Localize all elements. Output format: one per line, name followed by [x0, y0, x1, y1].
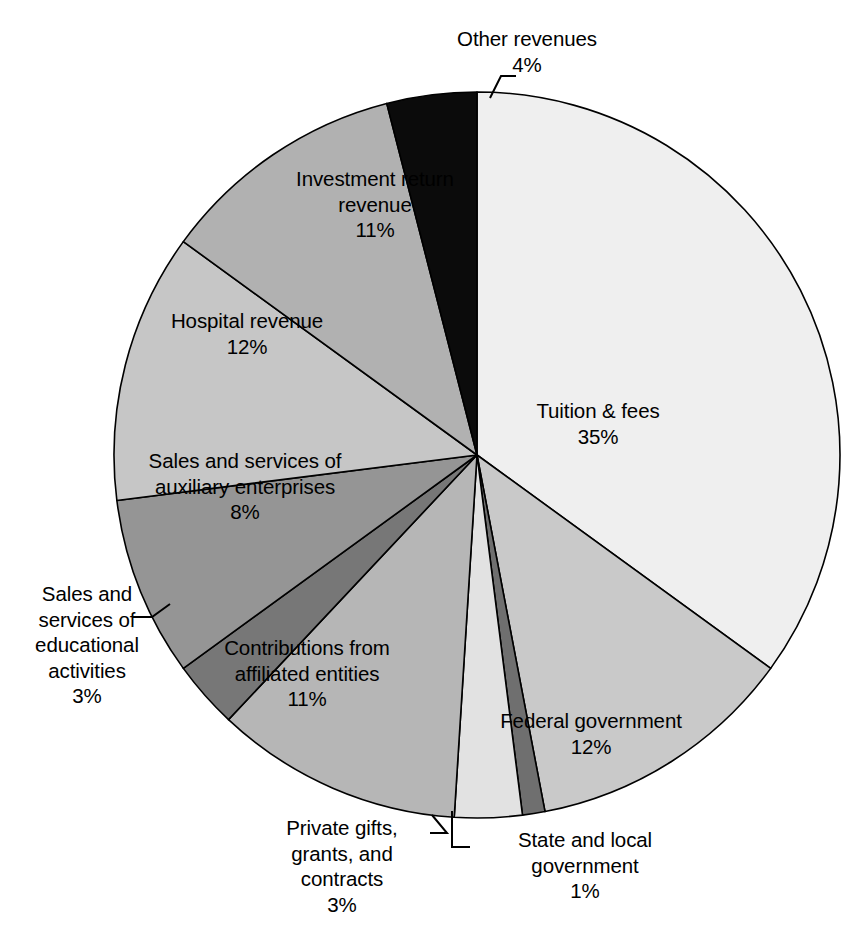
slice-label-federal-government: Federal government 12%: [466, 708, 716, 759]
slice-label-auxiliary-enterprises: Sales and services of auxiliary enterpri…: [110, 448, 380, 525]
slice-label-investment-return: Investment return revenue 11%: [258, 166, 492, 243]
slice-label-educational-activities: Sales and services of educational activi…: [2, 581, 172, 709]
slice-label-hospital-revenue: Hospital revenue 12%: [130, 308, 364, 359]
slice-label-contributions: Contributions from affiliated entities 1…: [192, 635, 422, 712]
pie-chart: Other revenues 4% Tuition & fees 35% Fed…: [0, 0, 867, 944]
slice-label-state-local-government: State and local government 1%: [470, 827, 700, 904]
slice-label-tuition-fees: Tuition & fees 35%: [478, 398, 718, 449]
slice-label-other-revenues: Other revenues 4%: [402, 26, 652, 77]
slice-label-private-gifts: Private gifts, grants, and contracts 3%: [242, 815, 442, 917]
